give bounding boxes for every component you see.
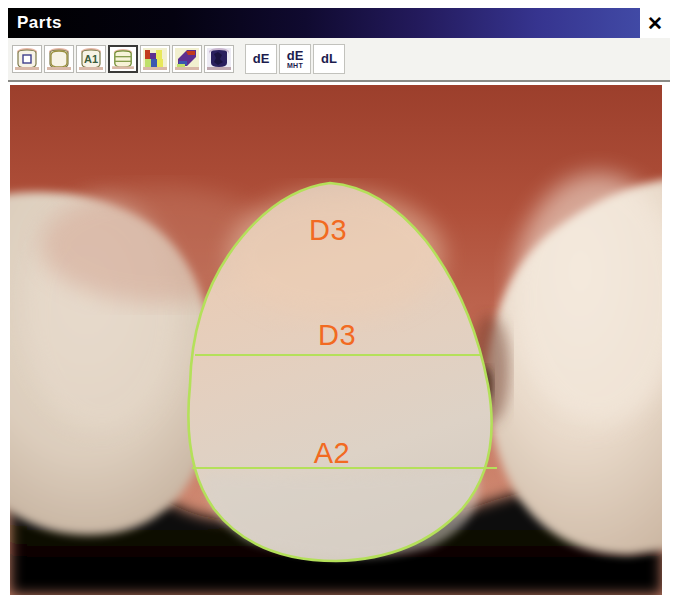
color-blocks-icon-button[interactable] <box>140 45 170 73</box>
tooth-region-select-icon-button[interactable] <box>12 45 42 73</box>
tooth-outline-icon <box>47 48 71 70</box>
shade-label-middle-zone: D3 <box>318 319 356 351</box>
tooth-shade-a1-icon: A1 <box>79 48 103 70</box>
toolbar-text-group: dE dE MHT dL <box>244 44 346 74</box>
tooth-shade-a1-icon-button[interactable]: A1 <box>76 45 106 73</box>
shade-label-cervical-zone: A2 <box>314 437 350 469</box>
svg-text:A1: A1 <box>84 53 98 65</box>
color-contrast-icon-button[interactable] <box>204 45 234 73</box>
tooth-photo-viewport[interactable]: D3 D3 A2 <box>10 85 662 595</box>
title-bar[interactable]: Parts ✕ <box>8 8 670 38</box>
de-button-label: dE <box>253 52 270 66</box>
window-bottom-edge <box>0 595 678 607</box>
shade-label-incisal-zone: D3 <box>309 214 347 246</box>
close-icon: ✕ <box>647 14 663 33</box>
tooth-outline-icon-button[interactable] <box>44 45 74 73</box>
color-gradient-icon <box>175 48 199 70</box>
color-contrast-icon <box>207 48 231 70</box>
de-button[interactable]: dE <box>245 44 277 74</box>
toolbar-icon-group: A1 <box>11 45 235 73</box>
toolbar: A1 <box>8 38 670 82</box>
color-blocks-icon <box>143 48 167 70</box>
window-title: Parts <box>17 13 62 33</box>
tooth-parts-icon-button[interactable] <box>108 45 138 73</box>
color-gradient-icon-button[interactable] <box>172 45 202 73</box>
dl-button[interactable]: dL <box>313 44 345 74</box>
de-mht-button-label: dE <box>287 49 304 63</box>
de-mht-button[interactable]: dE MHT <box>279 44 311 74</box>
tooth-region-select-icon <box>15 48 39 70</box>
tooth-parts-icon <box>112 49 134 69</box>
close-button[interactable]: ✕ <box>640 8 670 38</box>
tooth-photograph: D3 D3 A2 <box>10 85 662 595</box>
de-mht-button-sublabel: MHT <box>287 62 303 69</box>
parts-window: Parts ✕ <box>0 0 678 607</box>
dl-button-label: dL <box>321 52 337 66</box>
